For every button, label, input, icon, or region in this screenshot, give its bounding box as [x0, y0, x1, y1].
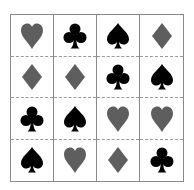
- grid-cell-r4-c3[interactable]: [97, 140, 140, 182]
- grid-cell-r2-c2[interactable]: [54, 57, 97, 99]
- grid-cell-r1-c1[interactable]: [11, 15, 54, 57]
- grid-cell-r1-c2[interactable]: [54, 15, 97, 57]
- grid-cell-r3-c3[interactable]: [97, 98, 140, 140]
- diamond-icon: [149, 22, 175, 50]
- spade-icon: [105, 22, 131, 50]
- diamond-icon: [105, 146, 131, 174]
- spade-icon: [62, 105, 88, 133]
- grid-cell-r2-c1[interactable]: [11, 57, 54, 99]
- grid-cell-r3-c1[interactable]: [11, 98, 54, 140]
- club-icon: [19, 105, 45, 133]
- club-icon: [62, 22, 88, 50]
- grid-cell-r2-c4[interactable]: [140, 57, 183, 99]
- grid-cell-r4-c2[interactable]: [54, 140, 97, 182]
- heart-icon: [19, 22, 45, 50]
- heart-icon: [149, 105, 175, 133]
- club-icon: [149, 146, 175, 174]
- diamond-icon: [62, 63, 88, 91]
- card-suit-grid: [10, 14, 184, 182]
- grid-cell-r3-c4[interactable]: [140, 98, 183, 140]
- spade-icon: [19, 146, 45, 174]
- grid-cell-r4-c1[interactable]: [11, 140, 54, 182]
- spade-icon: [149, 63, 175, 91]
- diamond-icon: [19, 63, 45, 91]
- club-icon: [105, 63, 131, 91]
- heart-icon: [105, 105, 131, 133]
- grid-cell-r4-c4[interactable]: [140, 140, 183, 182]
- grid-cell-r1-c3[interactable]: [97, 15, 140, 57]
- heart-icon: [62, 146, 88, 174]
- grid-cell-r1-c4[interactable]: [140, 15, 183, 57]
- grid-cell-r2-c3[interactable]: [97, 57, 140, 99]
- grid-cell-r3-c2[interactable]: [54, 98, 97, 140]
